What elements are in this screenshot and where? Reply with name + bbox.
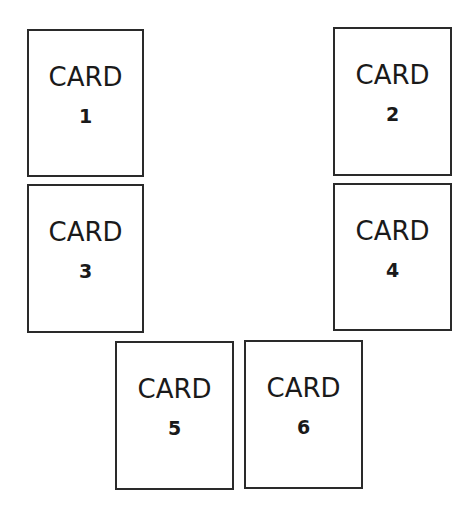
card-2: CARD 2: [333, 27, 452, 176]
card-6: CARD 6: [244, 340, 363, 489]
card-number: 2: [335, 102, 450, 126]
card-title: CARD: [335, 216, 450, 246]
card-number: 5: [117, 416, 232, 440]
card-title: CARD: [117, 374, 232, 404]
card-number: 3: [29, 259, 142, 283]
card-4: CARD 4: [333, 183, 452, 331]
card-3: CARD 3: [27, 184, 144, 333]
card-number: 4: [335, 258, 450, 282]
card-number: 1: [29, 104, 142, 128]
card-title: CARD: [335, 60, 450, 90]
card-title: CARD: [29, 62, 142, 92]
card-title: CARD: [246, 373, 361, 403]
card-5: CARD 5: [115, 341, 234, 490]
card-title: CARD: [29, 217, 142, 247]
card-number: 6: [246, 415, 361, 439]
card-1: CARD 1: [27, 29, 144, 177]
